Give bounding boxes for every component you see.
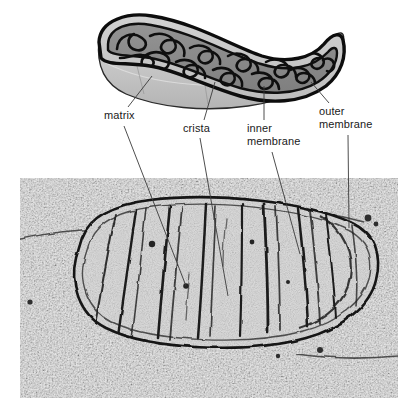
leader-outer-membrane-micrograph xyxy=(348,135,349,228)
label-matrix: matrix xyxy=(104,109,135,122)
label-inner-membrane-line2: membrane xyxy=(247,135,300,148)
leader-inner-membrane-micrograph xyxy=(272,152,300,254)
label-inner-membrane: inner membrane xyxy=(247,122,300,147)
leader-lines xyxy=(0,0,418,420)
label-outer-membrane: outer membrane xyxy=(319,105,372,130)
label-crista-line1: crista xyxy=(183,122,210,134)
leader-crista-schematic xyxy=(204,82,215,120)
label-matrix-line1: matrix xyxy=(104,109,135,121)
leader-crista-micrograph xyxy=(200,138,228,296)
mitochondrion-figure: matrix crista inner membrane outer membr… xyxy=(0,0,418,420)
label-outer-membrane-line2: membrane xyxy=(319,118,372,131)
leader-outer-membrane-schematic xyxy=(311,82,329,103)
label-outer-membrane-line1: outer xyxy=(319,105,345,117)
label-inner-membrane-line1: inner xyxy=(247,122,272,134)
leader-matrix-schematic xyxy=(128,76,152,107)
leader-matrix-micrograph xyxy=(124,126,186,286)
label-crista: crista xyxy=(183,122,210,135)
